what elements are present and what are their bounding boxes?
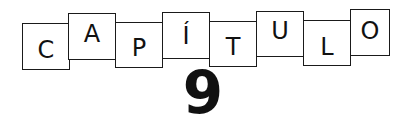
letter-tile-i-acute: Í	[162, 12, 210, 59]
letter-tile-o: O	[350, 9, 390, 56]
letter-tile-c: C	[22, 23, 70, 70]
letter: L	[320, 35, 333, 59]
letter-tile-p: P	[115, 22, 163, 68]
letter: T	[226, 35, 241, 59]
letter-tile-l: L	[303, 20, 351, 66]
letter: P	[132, 36, 146, 60]
chapter-number: 9	[178, 64, 228, 134]
letter-tile-u: U	[256, 11, 304, 57]
letter: U	[271, 19, 289, 43]
letter: A	[84, 22, 100, 46]
letter-tile-a: A	[68, 13, 116, 60]
letter: C	[38, 38, 55, 62]
letter: O	[361, 19, 380, 43]
letter: Í	[182, 24, 189, 48]
